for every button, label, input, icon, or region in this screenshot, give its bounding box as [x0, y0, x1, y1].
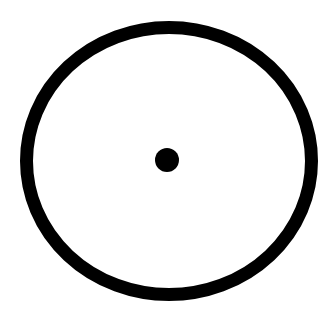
center-dot: [155, 148, 179, 172]
circle-with-center-dot-figure: [0, 0, 330, 322]
diagram-canvas: [0, 0, 330, 322]
